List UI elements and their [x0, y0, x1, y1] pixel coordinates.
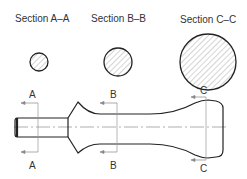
part-outline: [15, 100, 223, 158]
technical-drawing: [0, 0, 247, 179]
section-a-circle: [30, 53, 48, 71]
cut-label-a-top: A: [29, 89, 36, 100]
arrow-a-top: [21, 102, 38, 105]
arrow-b-bottom: [100, 151, 117, 154]
cut-label-a-bottom: A: [29, 160, 36, 171]
cut-label-b-top: B: [110, 89, 117, 100]
arrow-c-bottom: [191, 159, 206, 162]
cut-label-c-bottom: C: [200, 163, 207, 174]
section-b-circle: [104, 48, 132, 76]
arrow-a-bottom: [21, 151, 38, 154]
cut-label-b-bottom: B: [110, 160, 117, 171]
arrow-b-top: [100, 102, 117, 105]
cut-label-c-top: C: [200, 85, 207, 96]
section-c-circle: [180, 34, 236, 90]
